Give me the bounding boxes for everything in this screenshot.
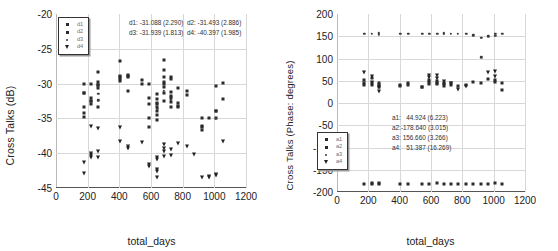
- stats-annotation-phase: a1: 44.924 (6.223) a2:-178.640 (3.015) a…: [392, 113, 451, 153]
- data-point-d4: [140, 140, 144, 144]
- data-point-a2: [421, 182, 424, 185]
- data-point-d4: [82, 161, 86, 165]
- data-point-d4: [96, 150, 100, 154]
- x-axis-tick-label: 600: [143, 191, 160, 202]
- data-point-a4: [486, 70, 490, 74]
- legend-marker-dot-icon: [322, 154, 330, 156]
- legend-marker-dot-icon: [63, 39, 71, 41]
- data-point-a2: [487, 182, 490, 185]
- data-point-d1: [127, 90, 130, 93]
- data-point-d1: [169, 106, 172, 109]
- data-point-d1: [222, 81, 225, 84]
- x-axis-label-magnitude: total_days: [0, 235, 279, 247]
- data-point-d1: [185, 93, 188, 96]
- x-axis-tick-label: 200: [360, 195, 377, 206]
- data-point-d1: [185, 89, 188, 92]
- data-point-d1: [162, 68, 165, 71]
- data-point-d1: [169, 90, 172, 93]
- x-axis-tick-label: 800: [174, 191, 191, 202]
- data-point-d4: [118, 126, 122, 130]
- legend-item-a3[interactable]: a3: [322, 151, 342, 159]
- x-axis-tick-label: 400: [111, 191, 128, 202]
- data-point-d1: [148, 82, 151, 85]
- data-point-d2: [176, 104, 179, 107]
- data-point-d1: [156, 113, 159, 116]
- data-point-a2: [363, 182, 366, 185]
- data-point-d1: [82, 111, 85, 114]
- legend-marker-square-icon: [63, 31, 71, 34]
- x-axis-tick-label: 400: [391, 195, 408, 206]
- data-point-a1: [428, 82, 431, 85]
- legend-label: d1: [77, 22, 83, 28]
- x-axis-tick-label: 800: [454, 195, 471, 206]
- data-point-d1: [97, 105, 100, 108]
- y-axis-tick-label: -40: [38, 148, 52, 159]
- data-point-d1: [169, 78, 172, 81]
- legend-item-a2[interactable]: a2: [322, 144, 342, 152]
- x-axis-tick-label: 200: [79, 191, 96, 202]
- legend-item-d4[interactable]: d4: [63, 44, 83, 52]
- data-point-a1: [363, 84, 366, 87]
- data-point-d1: [82, 83, 85, 86]
- data-point-d4: [200, 175, 204, 179]
- y-axis-tick-label: -200: [313, 187, 333, 198]
- data-point-d4: [185, 144, 189, 148]
- data-point-a4: [456, 87, 460, 91]
- legend-marker-triangle-down-icon: [63, 45, 71, 49]
- data-point-a1: [436, 83, 439, 86]
- data-point-d1: [82, 106, 85, 109]
- legend-marker-square-icon: [322, 146, 330, 149]
- data-point-d4: [162, 150, 166, 154]
- legend-item-a4[interactable]: a4: [322, 159, 342, 167]
- data-point-d1: [156, 109, 159, 112]
- data-point-d1: [148, 117, 151, 120]
- legend-item-d3[interactable]: d3: [63, 36, 83, 44]
- y-axis-tick-label: 150: [316, 31, 333, 42]
- data-point-d1: [97, 86, 100, 89]
- data-point-d1: [162, 75, 165, 78]
- data-point-a4: [464, 84, 468, 88]
- data-point-a4: [370, 75, 374, 79]
- data-point-d1: [148, 96, 151, 99]
- data-point-a2: [465, 182, 468, 185]
- data-point-a2: [428, 182, 431, 185]
- data-point-a2: [501, 182, 504, 185]
- data-point-a2: [370, 182, 373, 185]
- stats-annotation-magnitude: d1: -31.088 (2.290) d2: -31.493 (2.886) …: [129, 18, 241, 38]
- data-point-d2: [200, 125, 203, 128]
- gridline-horizontal: [337, 36, 525, 37]
- legend-label: a1: [336, 137, 342, 143]
- data-point-d1: [200, 116, 203, 119]
- data-point-d2: [119, 77, 122, 80]
- legend-item-d2[interactable]: d2: [63, 29, 83, 37]
- gridline-vertical: [525, 14, 526, 192]
- data-point-d2: [214, 110, 217, 113]
- data-point-a1: [501, 88, 504, 91]
- data-point-d4: [82, 172, 86, 176]
- legend-item-a1[interactable]: a1: [322, 136, 342, 144]
- data-point-a2: [494, 182, 497, 185]
- data-point-a4: [493, 75, 497, 79]
- data-point-d1: [200, 129, 203, 132]
- y-axis-label-magnitude: Cross Talks (dB): [0, 0, 20, 251]
- data-point-a1: [494, 80, 497, 83]
- data-point-a4: [362, 70, 366, 74]
- data-point-a2: [407, 182, 410, 185]
- data-point-d1: [148, 125, 151, 128]
- legend-label: d3: [77, 37, 83, 43]
- data-point-d4: [89, 156, 93, 160]
- data-point-d2: [162, 82, 165, 85]
- data-point-a4: [449, 81, 453, 85]
- data-point-d1: [90, 82, 93, 85]
- legend-item-d1[interactable]: d1: [63, 21, 83, 29]
- data-point-a4: [493, 69, 497, 73]
- data-point-a1: [421, 86, 424, 89]
- x-axis-tick-label: 0: [53, 191, 59, 202]
- legend-phase[interactable]: a1a2a3a4: [317, 132, 348, 170]
- legend-magnitude[interactable]: d1d2d3d4: [58, 17, 89, 55]
- x-axis-tick-label: 1000: [203, 191, 225, 202]
- data-point-d2: [97, 83, 100, 86]
- data-point-a2: [442, 182, 445, 185]
- data-point-d1: [162, 58, 165, 61]
- data-point-d2: [127, 74, 130, 77]
